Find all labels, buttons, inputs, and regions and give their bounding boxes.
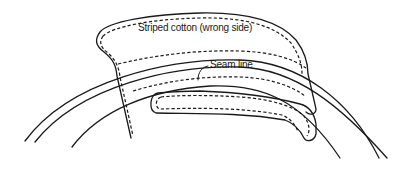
inner-slot-stitching xyxy=(156,96,309,137)
diagram-canvas: Striped cotton (wrong side) Seam line xyxy=(0,0,404,169)
outer-band-inner-arc xyxy=(35,67,387,158)
inner-slot-outline xyxy=(151,91,316,141)
fabric-label: Striped cotton (wrong side) xyxy=(138,22,252,33)
fabric-patch-stitching-left xyxy=(101,36,133,136)
inner-curve xyxy=(72,86,340,158)
outer-band-outer-arc xyxy=(25,60,379,158)
seam-line-label: Seam line xyxy=(210,59,253,70)
